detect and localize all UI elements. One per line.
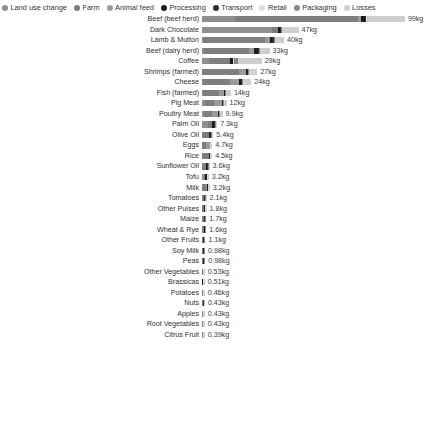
stacked-bar[interactable]	[202, 216, 206, 222]
chart-row[interactable]: Rice4.5kg	[0, 151, 430, 162]
stacked-bar[interactable]	[202, 248, 205, 254]
row-value-label: 7.3kg	[220, 120, 237, 128]
chart-row[interactable]: Sunflower Oil3.6kg	[0, 161, 430, 172]
stacked-bar[interactable]	[202, 184, 210, 190]
chart-row[interactable]: Beef (beef herd)99kg	[0, 14, 430, 25]
stacked-bar[interactable]	[202, 58, 262, 64]
stacked-bar[interactable]	[202, 37, 284, 43]
chart-row[interactable]: Cheese24kg	[0, 77, 430, 88]
bar-segment-losses	[211, 142, 212, 148]
chart-row[interactable]: Tomatoes2.1kg	[0, 193, 430, 204]
chart-row[interactable]: Milk3.2kg	[0, 182, 430, 193]
bar-segment-losses	[282, 27, 298, 33]
stacked-bar[interactable]	[202, 279, 205, 285]
stacked-bar[interactable]	[202, 48, 270, 54]
stacked-bar[interactable]	[202, 332, 205, 338]
chart-row[interactable]: Coffee29kg	[0, 56, 430, 67]
chart-row[interactable]: Other Pulses1.8kg	[0, 203, 430, 214]
stacked-bar[interactable]	[202, 226, 206, 232]
bar-segment-losses	[249, 69, 258, 75]
bar-segment-losses	[224, 100, 227, 106]
stacked-bar[interactable]	[202, 290, 205, 296]
row-bar-wrapper: 33kg	[202, 46, 430, 57]
emissions-bar-chart: Land use changeFarmAnimal feedProcessing…	[0, 0, 430, 436]
chart-row[interactable]: Root Vegetables0.43kg	[0, 319, 430, 330]
stacked-bar[interactable]	[202, 153, 212, 159]
chart-row[interactable]: Beef (dairy herd)33kg	[0, 46, 430, 57]
legend-item-transport[interactable]: Transport	[213, 3, 253, 12]
row-bar-wrapper: 0.43kg	[202, 298, 430, 309]
row-category-label: Beef (dairy herd)	[0, 47, 202, 55]
row-bar-wrapper: 4.5kg	[202, 151, 430, 162]
chart-row[interactable]: Dark Chocolate47kg	[0, 25, 430, 36]
chart-row[interactable]: Lamb & Mutton40kg	[0, 35, 430, 46]
chart-row[interactable]: Nuts0.43kg	[0, 298, 430, 309]
stacked-bar[interactable]	[202, 142, 212, 148]
legend-dot-icon	[344, 5, 350, 11]
row-value-label: 2.1kg	[210, 194, 227, 202]
stacked-bar[interactable]	[202, 111, 223, 117]
row-value-label: 29kg	[265, 57, 280, 65]
row-value-label: 9.9kg	[226, 110, 243, 118]
bar-segment-losses	[209, 163, 210, 169]
legend-dot-icon	[213, 5, 219, 11]
chart-row[interactable]: Maize1.7kg	[0, 214, 430, 225]
stacked-bar[interactable]	[202, 27, 299, 33]
chart-row[interactable]: Peas0.98kg	[0, 256, 430, 267]
stacked-bar[interactable]	[202, 205, 207, 211]
stacked-bar[interactable]	[202, 121, 217, 127]
stacked-bar[interactable]	[202, 79, 251, 85]
chart-row[interactable]: Brassicas0.51kg	[0, 277, 430, 288]
stacked-bar[interactable]	[202, 174, 209, 180]
legend-item-farm[interactable]: Farm	[74, 3, 100, 12]
chart-row[interactable]: Soy Milk0.98kg	[0, 245, 430, 256]
chart-row[interactable]: Palm Oil7.3kg	[0, 119, 430, 130]
stacked-bar[interactable]	[202, 195, 207, 201]
bar-segment-animal-feed	[214, 100, 221, 106]
stacked-bar[interactable]	[202, 163, 210, 169]
row-category-label: Palm Oil	[0, 120, 202, 128]
row-bar-wrapper: 14kg	[202, 88, 430, 99]
chart-row[interactable]: Olive Oil5.4kg	[0, 130, 430, 141]
row-category-label: Lamb & Mutton	[0, 36, 202, 44]
row-value-label: 0.51kg	[208, 278, 229, 286]
row-category-label: Pig Meat	[0, 99, 202, 107]
stacked-bar[interactable]	[202, 258, 205, 264]
chart-row[interactable]: Apples0.43kg	[0, 308, 430, 319]
stacked-bar[interactable]	[202, 269, 205, 275]
stacked-bar[interactable]	[202, 321, 205, 327]
legend-item-retail[interactable]: Retail	[259, 3, 286, 12]
chart-row[interactable]: Eggs4.7kg	[0, 140, 430, 151]
row-value-label: 0.39kg	[208, 331, 229, 339]
chart-row[interactable]: Tofu3.2kg	[0, 172, 430, 183]
stacked-bar[interactable]	[202, 100, 227, 106]
bar-segment-land-use-change	[202, 27, 272, 33]
chart-row[interactable]: Citrus Fruit0.39kg	[0, 329, 430, 340]
legend-item-land-use-change[interactable]: Land use change	[2, 3, 67, 12]
legend-item-packaging[interactable]: Packaging	[294, 3, 337, 12]
stacked-bar[interactable]	[202, 132, 213, 138]
chart-row[interactable]: Wheat & Rye1.6kg	[0, 224, 430, 235]
chart-row[interactable]: Poultry Meat9.9kg	[0, 109, 430, 120]
row-category-label: Rice	[0, 152, 202, 160]
row-value-label: 1.7kg	[209, 215, 226, 223]
stacked-bar[interactable]	[202, 69, 257, 75]
chart-row[interactable]: Potatoes0.46kg	[0, 287, 430, 298]
chart-row[interactable]: Pig Meat12kg	[0, 98, 430, 109]
row-bar-wrapper: 0.98kg	[202, 256, 430, 267]
chart-row[interactable]: Fish (farmed)14kg	[0, 88, 430, 99]
legend-item-processing[interactable]: Processing	[161, 3, 206, 12]
legend-item-losses[interactable]: Losses	[344, 3, 376, 12]
row-category-label: Beef (beef herd)	[0, 15, 202, 23]
stacked-bar[interactable]	[202, 90, 231, 96]
chart-row[interactable]: Other Fruits1.1kg	[0, 235, 430, 246]
bar-segment-losses	[367, 16, 405, 22]
stacked-bar[interactable]	[202, 311, 205, 317]
chart-row[interactable]: Other Vegetables0.53kg	[0, 266, 430, 277]
chart-row[interactable]: Shrimps (farmed)27kg	[0, 67, 430, 78]
stacked-bar[interactable]	[202, 237, 205, 243]
stacked-bar[interactable]	[202, 16, 405, 22]
stacked-bar[interactable]	[202, 300, 205, 306]
bar-segment-farm	[209, 58, 230, 64]
legend-item-animal-feed[interactable]: Animal feed	[107, 3, 154, 12]
